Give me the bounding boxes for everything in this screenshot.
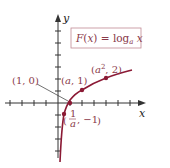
point-one-zero [68,101,72,105]
point-a2-two [104,76,108,80]
leader-line-one-zero [37,84,68,101]
label-one-zero: (1, 0) [12,75,39,86]
svg-text:): ) [97,115,101,126]
x-axis-label: x [139,107,146,120]
label-a2-two: (a2, 2) [91,63,122,75]
label-inv-a-neg1: ( 1 a , −1 ) [63,108,101,129]
y-axis-arrow-icon [55,14,61,22]
x-axis [5,100,142,106]
point-a-one [80,88,84,92]
svg-text:a: a [70,118,76,129]
formula-label: F(x) = loga x [75,32,143,46]
svg-text:, −1: , −1 [77,114,98,125]
label-a-one: (a, 1) [61,75,88,86]
log-function-graph: x y F(x) = loga x (1, 0) (a, 1) (a2, 2) … [0,0,170,168]
y-axis [55,20,61,158]
svg-text:(: ( [63,115,67,126]
y-axis-label: y [62,12,70,25]
x-axis-arrow-icon [138,100,146,106]
